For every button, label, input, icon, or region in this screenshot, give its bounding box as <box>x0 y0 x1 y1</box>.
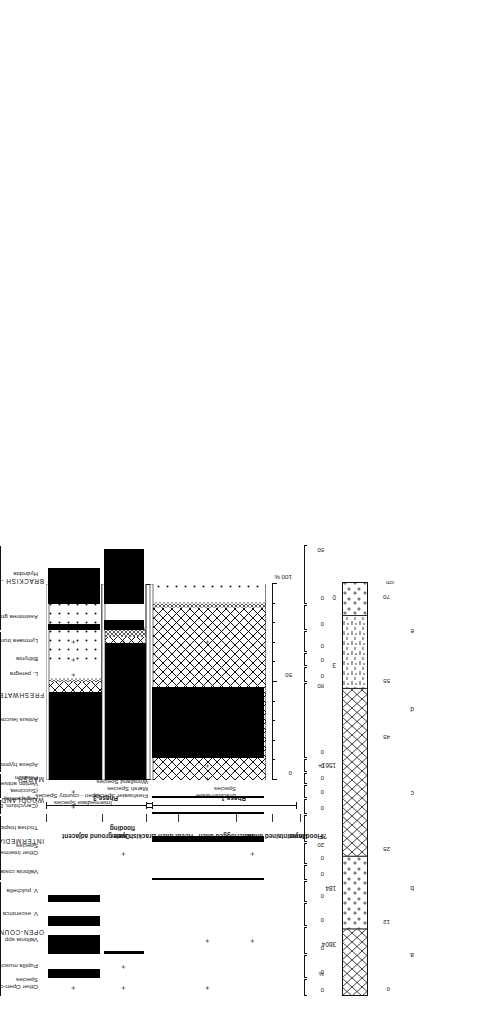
group-label: BRACKISH - WATER <box>0 578 44 585</box>
taxon-axis-tick-label: 0 <box>321 672 324 679</box>
taxon-name-label: Vallonia spp <box>5 937 38 944</box>
context-label: flooding <box>110 825 135 832</box>
taxon-axis-tick <box>304 759 307 760</box>
taxon-axis-line <box>304 882 305 902</box>
taxon-axis-tick <box>304 843 307 844</box>
cumulative-legend-label: Species <box>214 786 236 793</box>
cumulative-axis-tick <box>272 740 275 741</box>
taxon-axis-tick <box>304 813 307 814</box>
taxon-axis-line <box>304 816 305 842</box>
cumulative-segment <box>150 602 266 604</box>
cumulative-axis-tick <box>272 779 277 780</box>
cumulative-segment <box>46 680 102 682</box>
taxon-axis-tick-label: 0 <box>321 916 324 923</box>
taxon-axis-tick <box>304 879 307 880</box>
taxon-axis-line <box>304 904 305 926</box>
sediment-bed <box>342 688 368 856</box>
phase-separator <box>146 803 152 804</box>
taxon-name-label: Lymnaea truncatula <box>0 638 38 645</box>
taxon-bar <box>152 796 264 798</box>
sediment-bed <box>342 929 368 996</box>
depth-tick-label: 25 <box>383 846 390 853</box>
taxon-axis-tick-label: 0 <box>321 870 324 877</box>
bar-plus-marker: + <box>70 986 77 990</box>
taxon-name-label: (Succinea, <box>9 788 38 795</box>
taxon-name-label: Bithynia <box>16 656 38 663</box>
taxon-axis-tick-label: 0 <box>321 774 324 781</box>
group-label: FRESHWATER/SLUM <box>0 692 44 699</box>
taxon-bar <box>48 895 100 902</box>
taxon-axis-tick-label: 50 <box>317 546 324 553</box>
phase-bracket-cap <box>152 802 153 809</box>
taxon-name-label: Pupilla muscorum <box>0 963 38 970</box>
context-guide-dash <box>146 814 147 822</box>
cumulative-segment <box>46 692 102 780</box>
taxon-axis-tick <box>304 631 307 632</box>
taxon-axis-tick <box>304 925 307 926</box>
bar-plus-marker: + <box>120 965 127 969</box>
bar-plus-marker: + <box>204 640 211 644</box>
sediment-column <box>342 582 368 996</box>
taxon-bar <box>48 935 100 954</box>
bar-plus-marker: + <box>249 852 256 856</box>
taxon-name-label: Hydrobia <box>13 571 38 578</box>
taxon-name-label: Other Intermediate <box>0 850 38 857</box>
cumulative-axis-tick <box>272 583 277 584</box>
context-guide-dash <box>178 814 179 822</box>
section-letter-label: e <box>410 628 414 635</box>
taxon-axis-tick <box>304 955 307 956</box>
cumulative-axis-line <box>272 584 273 780</box>
sediment-bed <box>342 582 368 616</box>
taxon-axis-line <box>304 928 305 954</box>
bar-plus-marker: + <box>204 939 211 943</box>
taxon-axis-tick <box>304 901 307 902</box>
bar-plus-marker: + <box>204 777 211 781</box>
context-label: Brackish water <box>110 833 155 840</box>
taxon-axis-tick <box>304 881 307 882</box>
cumulative-axis-tick <box>272 642 275 643</box>
taxon-axis-tick <box>304 785 307 786</box>
taxon-name-label: (Carychium, Discus, <box>0 803 38 810</box>
depth-tick-label: 45 <box>383 734 390 741</box>
cumulative-legend-label: Marsh Species <box>107 786 148 793</box>
taxon-axis-tick <box>304 799 307 800</box>
taxon-axis-line <box>304 606 305 630</box>
cumulative-segment <box>46 678 102 680</box>
sediment-bed <box>342 856 368 929</box>
figure-canvas: Brackish-waterSpeciesFreshwater SpeciesM… <box>0 0 484 1012</box>
mollusc-histogram: Brackish-waterSpeciesFreshwater SpeciesM… <box>0 0 484 1012</box>
cumulative-segment <box>150 584 266 592</box>
taxon-name-label: Anisus leucostoma <box>0 717 38 724</box>
sample-count-label: 1561+ <box>318 762 336 769</box>
cumulative-segment <box>102 629 146 637</box>
taxon-axis-tick <box>304 605 307 606</box>
taxon-axis-tick <box>304 783 307 784</box>
cumulative-axis-tick <box>272 661 275 662</box>
taxon-axis-tick <box>304 665 307 666</box>
sample-count-label: 3604 <box>322 941 336 948</box>
phase-bracket-cap <box>296 802 297 809</box>
taxon-axis-tick <box>304 865 307 866</box>
sediment-bed <box>342 616 368 689</box>
bar-plus-marker: + <box>70 640 77 644</box>
taxon-name-label: Species <box>16 977 38 984</box>
depth-tick-label: 0 <box>387 986 390 993</box>
cumulative-axis-tick <box>272 701 275 702</box>
sample-count-label: 184 <box>325 885 336 892</box>
taxon-axis-tick <box>304 979 307 980</box>
taxon-name-label: Trichea hispida <box>0 825 38 832</box>
context-guide-dash <box>46 814 47 822</box>
cumulative-axis-tick-label: 100 % <box>274 574 292 581</box>
phase-bracket-cap <box>46 802 47 809</box>
cumulative-axis-tick <box>272 603 275 604</box>
bar-plus-marker: + <box>249 939 256 943</box>
taxon-axis-line <box>304 668 305 682</box>
group-bracket <box>0 546 1 630</box>
taxon-axis-line <box>304 866 305 880</box>
bar-plus-marker: + <box>70 790 77 794</box>
bar-plus-marker: + <box>120 640 127 644</box>
cumulative-axis-tick-label: 50 <box>285 672 292 679</box>
group-label: OPEN-COUNTRY <box>0 929 44 936</box>
taxon-name-label: Other Open-country <box>0 984 38 991</box>
taxon-axis-tick <box>304 651 307 652</box>
